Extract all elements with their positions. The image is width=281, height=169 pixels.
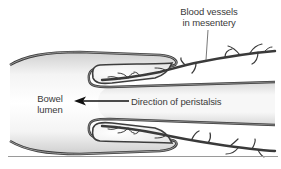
label-direction-of-peristalsis: Direction of peristalsis <box>131 96 222 107</box>
label-vessels-line2: in mesentery <box>170 17 248 28</box>
bottom-divider <box>8 156 278 157</box>
label-bowel-lumen: Bowel lumen <box>30 93 70 115</box>
vessels-leader-line <box>206 30 208 60</box>
label-lumen-line2: lumen <box>30 104 70 115</box>
intussusception-diagram: Blood vessels in mesentery Bowel lumen D… <box>0 0 281 169</box>
label-vessels-line1: Blood vessels <box>170 6 248 17</box>
label-blood-vessels: Blood vessels in mesentery <box>170 6 248 28</box>
label-lumen-line1: Bowel <box>30 93 70 104</box>
